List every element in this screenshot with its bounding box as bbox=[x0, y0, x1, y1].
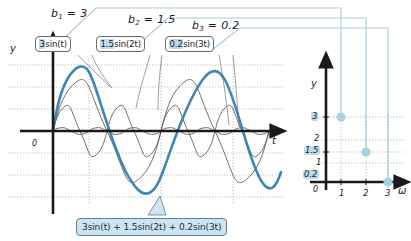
spectrum-plot-axes bbox=[310, 66, 396, 190]
spectrum-ytick-1: 1 bbox=[316, 158, 321, 167]
spectrum-amplitude-dots bbox=[336, 112, 392, 186]
component-box-1.5sin-2t: 1.5sin(2t) bbox=[96, 36, 145, 52]
coefficient-b2-value: = 1.5 bbox=[144, 13, 176, 26]
time-plot-y-axis-label: y bbox=[10, 44, 16, 54]
spectrum-tick-marks bbox=[323, 117, 388, 185]
spectrum-connector-lines bbox=[60, 8, 388, 182]
time-plot-origin-label: 0 bbox=[32, 140, 37, 148]
time-plot-axes bbox=[20, 46, 272, 214]
spectrum-ytick-2: 2 bbox=[314, 134, 319, 143]
coefficient-label-b2: b2 = 1.5 bbox=[128, 14, 176, 27]
spectrum-dot-b3 bbox=[383, 177, 392, 186]
spectrum-dot-b1 bbox=[336, 112, 345, 121]
coefficient-b3-subscript: 3 bbox=[199, 25, 204, 33]
coefficient-label-b1: b1 = 3 bbox=[51, 8, 87, 21]
leader-line-1.5sin-2t-b bbox=[158, 55, 162, 110]
spectrum-x-axis-label: ω bbox=[398, 186, 406, 196]
leader-line-1.5sin-2t bbox=[136, 55, 150, 108]
sum-formula-text: 3sin(t) + 1.5sin(2t) + 0.2sin(3t) bbox=[82, 222, 221, 232]
component-coefficient-2: 1.5 bbox=[100, 39, 114, 49]
spectrum-ytick-3: 3 bbox=[311, 112, 318, 121]
spectrum-origin-label: 0 bbox=[313, 186, 318, 194]
component-box-0.2sin-3t: 0.2sin(3t) bbox=[165, 36, 214, 52]
coefficient-label-b3: b3 = 0.2 bbox=[192, 20, 240, 33]
spectrum-xtick-2: 2 bbox=[363, 189, 368, 198]
sum-formula-box: 3sin(t) + 1.5sin(2t) + 0.2sin(3t) bbox=[76, 218, 227, 236]
spectrum-xtick-1: 1 bbox=[339, 189, 344, 198]
time-plot-x-axis-label: t bbox=[272, 136, 276, 146]
fourier-series-figure: b1 = 3 b2 = 1.5 b3 = 0.2 3sin(t) 1.5sin(… bbox=[0, 0, 411, 241]
component-expression-2: sin(2t) bbox=[114, 39, 141, 49]
coefficient-b1-subscript: 1 bbox=[58, 13, 63, 21]
coefficient-b1-value: = 3 bbox=[67, 7, 88, 20]
component-coefficient-3: 0.2 bbox=[169, 39, 183, 49]
component-expression-1: sin(t) bbox=[45, 39, 67, 49]
connector-b3 bbox=[212, 28, 388, 182]
coefficient-b3-value: = 0.2 bbox=[208, 19, 240, 32]
component-box-3sin-t: 3sin(t) bbox=[35, 36, 71, 52]
spectrum-xtick-3: 3 bbox=[385, 189, 390, 198]
sum-box-pointer bbox=[148, 196, 166, 215]
spectrum-y-axis-label: y bbox=[311, 79, 317, 89]
spectrum-dot-b2 bbox=[361, 147, 370, 156]
component-expression-3: sin(3t) bbox=[183, 39, 210, 49]
component-leader-lines bbox=[78, 55, 239, 127]
spectrum-ytick-0.2: 0.2 bbox=[303, 170, 319, 179]
coefficient-b2-subscript: 2 bbox=[135, 19, 140, 27]
spectrum-ytick-1.5: 1.5 bbox=[304, 146, 320, 155]
